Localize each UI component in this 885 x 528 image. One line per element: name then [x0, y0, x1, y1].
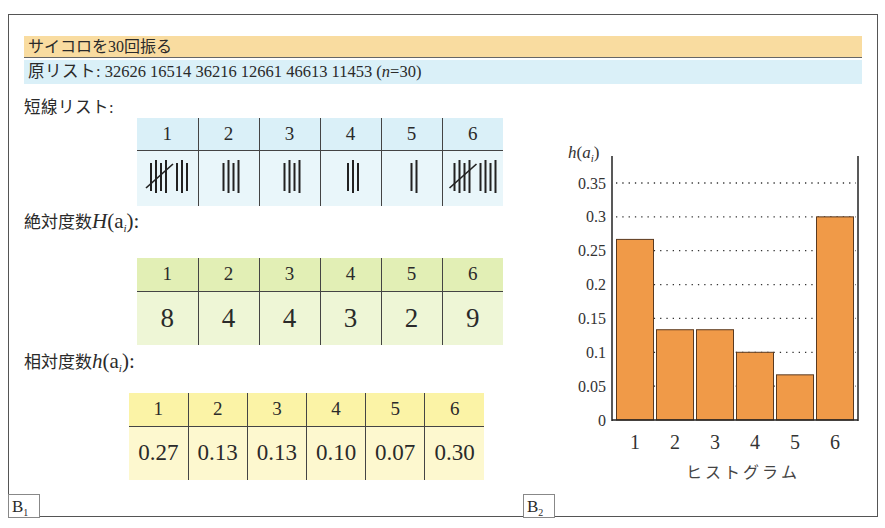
y-tick-label: 0.15	[578, 310, 606, 327]
x-tick-label: 5	[790, 431, 800, 453]
y-tick-label: 0.2	[586, 276, 606, 293]
histogram-bar	[697, 330, 734, 420]
y-axis-label: h(ai)	[568, 143, 599, 164]
y-tick-label: 0.35	[578, 175, 606, 192]
histogram-bar	[777, 375, 814, 420]
y-tick-label: 0	[598, 412, 606, 429]
y-tick-label: 0.25	[578, 242, 606, 259]
x-tick-label: 1	[630, 431, 640, 453]
y-tick-label: 0.1	[586, 344, 606, 361]
x-tick-label: 6	[830, 431, 840, 453]
histogram-chart: 00.050.10.150.20.250.30.35123456h(ai)ヒスト…	[0, 0, 885, 528]
x-axis-label: ヒストグラム	[686, 464, 800, 481]
y-tick-label: 0.05	[578, 378, 606, 395]
x-tick-label: 4	[750, 431, 760, 453]
histogram-bar	[617, 239, 654, 420]
y-tick-label: 0.3	[586, 208, 606, 225]
x-tick-label: 3	[710, 431, 720, 453]
histogram-bar	[817, 217, 854, 420]
histogram-bar	[737, 352, 774, 420]
histogram-bar	[657, 330, 694, 420]
x-tick-label: 2	[670, 431, 680, 453]
